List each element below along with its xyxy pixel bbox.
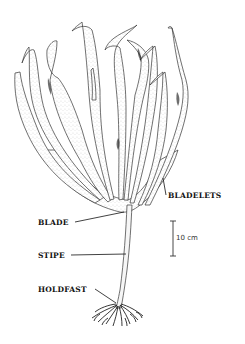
holdfast — [92, 304, 143, 326]
stipe-leader — [71, 254, 126, 255]
label-bladelets: BLADELETS — [168, 192, 221, 200]
stipe — [116, 205, 132, 308]
label-stipe: STIPE — [38, 252, 65, 260]
scale-bar-label: 10 cm — [176, 235, 198, 242]
holdfast-leader — [95, 289, 116, 303]
label-holdfast: HOLDFAST — [38, 286, 87, 294]
bladelets — [15, 22, 188, 205]
label-blade: BLADE — [38, 219, 69, 227]
kelp-illustration — [0, 0, 245, 344]
blade-leader — [75, 212, 124, 222]
bladelets-leader — [163, 178, 166, 195]
